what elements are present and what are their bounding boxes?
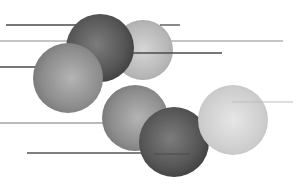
sphere-light-right: [198, 85, 268, 155]
spheres-illustration: [0, 0, 308, 190]
sphere-mid-left: [33, 43, 103, 113]
